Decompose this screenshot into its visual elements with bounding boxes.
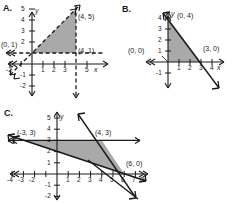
x-tick-b-2: 2 xyxy=(188,65,192,72)
panel-a-graph xyxy=(0,0,118,102)
y-axis-name-c: y xyxy=(60,113,64,120)
x-tick-c-5: 5 xyxy=(110,177,114,184)
x-tick-c-7: 7 xyxy=(132,177,136,184)
x-tick-a-1: 1 xyxy=(41,67,45,74)
y-tick-c-1: 1 xyxy=(47,160,51,167)
x-tick-c-1: 1 xyxy=(66,177,70,184)
x-axis-name-b: x xyxy=(217,64,221,71)
y-tick-a-5: 5 xyxy=(21,6,25,13)
x-tick-c-2: 2 xyxy=(77,177,81,184)
point-label-c-6-0: (6, 0) xyxy=(126,160,142,167)
point-label-b-0-0: (0, 0) xyxy=(128,47,144,54)
origin-leader-b xyxy=(162,56,168,62)
point-label-b-0-4: (0, 4) xyxy=(177,12,193,19)
point-label-c-4-3: (4, 3) xyxy=(95,129,111,136)
y-tick-a-4: 4 xyxy=(21,17,25,24)
y-tick-b-neg1: -1 xyxy=(156,70,162,77)
x-tick-c-6: 6 xyxy=(121,177,125,184)
y-tick-a-neg2: -2 xyxy=(20,83,26,90)
panel-b: B. xyxy=(118,0,236,102)
point-label-a-0-1: (0, 1) xyxy=(1,41,17,48)
panel-a-label: A. xyxy=(3,4,12,13)
panel-c: C. xyxy=(0,102,236,204)
y-tick-b-2: 2 xyxy=(158,37,162,44)
x-tick-b-4: 4 xyxy=(210,65,214,72)
shaded-region-b xyxy=(168,18,201,62)
y-tick-c-3: 3 xyxy=(47,137,51,144)
point-label-c-neg3-3: (-3, 3) xyxy=(17,129,36,136)
x-tick-a-3: 3 xyxy=(63,67,67,74)
x-tick-c-4: 4 xyxy=(99,177,103,184)
y-tick-a-3: 3 xyxy=(21,28,25,35)
x-tick-c-neg2: -2 xyxy=(29,177,35,184)
y-tick-c-4: 4 xyxy=(47,126,51,133)
panel-c-label: C. xyxy=(4,109,13,118)
y-tick-a-2: 2 xyxy=(21,39,25,46)
panel-b-label: B. xyxy=(122,5,131,14)
x-tick-a-neg2: -2 xyxy=(6,67,12,74)
y-tick-c-2: 2 xyxy=(47,148,51,155)
x-tick-b-1: 1 xyxy=(177,65,181,72)
x-axis-name-a: x xyxy=(94,66,98,73)
x-tick-c-neg3: -3 xyxy=(18,177,24,184)
y-tick-c-neg2: -2 xyxy=(45,193,51,200)
x-axis-name-c: x xyxy=(142,176,146,183)
x-tick-c-neg4: -4 xyxy=(7,177,13,184)
y-tick-a-neg1: -1 xyxy=(20,72,26,79)
y-tick-b-3: 3 xyxy=(158,26,162,33)
x-tick-a-2: 2 xyxy=(52,67,56,74)
x-tick-a-5: 5 xyxy=(85,67,89,74)
x-tick-c-3: 3 xyxy=(88,177,92,184)
point-label-a-4-5: (4, 5) xyxy=(78,13,94,20)
y-tick-b-4: 4 xyxy=(158,15,162,22)
figure-sheet: A. xyxy=(0,0,236,204)
y-tick-b-1: 1 xyxy=(158,48,162,55)
y-tick-c-neg1: -1 xyxy=(45,182,51,189)
point-label-b-3-0: (3, 0) xyxy=(203,45,219,52)
x-tick-b-3: 3 xyxy=(199,65,203,72)
y-tick-c-5: 5 xyxy=(47,115,51,122)
y-axis-name-a: y xyxy=(35,7,39,14)
point-label-a-4-1: (4, 1) xyxy=(78,47,94,54)
panel-a: A. xyxy=(0,0,118,102)
panel-c-graph xyxy=(0,102,236,204)
y-axis-name-b: y xyxy=(171,10,175,17)
